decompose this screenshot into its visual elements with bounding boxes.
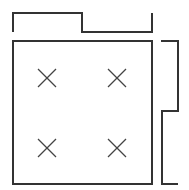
main-square bbox=[13, 41, 152, 184]
x-marker-bottom-right-icon bbox=[108, 139, 126, 157]
x-marker-bottom-left-icon bbox=[38, 139, 56, 157]
right-stepped-bracket bbox=[161, 41, 178, 184]
diagram-canvas bbox=[0, 0, 189, 190]
x-marker-top-left-icon bbox=[38, 69, 56, 87]
x-markers-group bbox=[38, 69, 126, 157]
top-stepped-bracket bbox=[13, 13, 152, 32]
x-marker-top-right-icon bbox=[108, 69, 126, 87]
